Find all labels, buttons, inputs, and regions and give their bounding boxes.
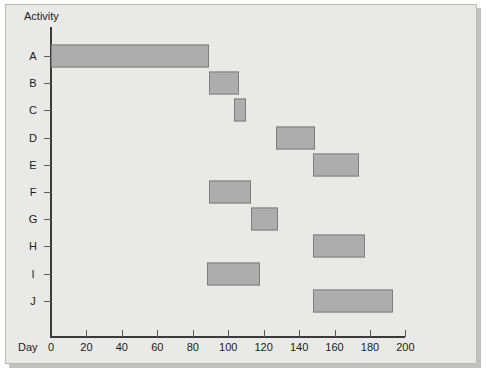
x-tick-label-40: 40 <box>116 341 128 353</box>
x-tick-40 <box>122 330 123 337</box>
y-axis-caption: Activity <box>24 10 59 22</box>
gantt-bar-g <box>251 208 278 231</box>
gantt-bar-b <box>209 72 239 95</box>
gantt-bar-e <box>313 153 359 176</box>
x-tick-120 <box>264 330 265 337</box>
y-tick-label-j: J <box>26 295 40 307</box>
x-tick-180 <box>370 330 371 337</box>
x-tick-label-200: 200 <box>396 341 414 353</box>
x-tick-20 <box>86 330 87 337</box>
x-tick-140 <box>299 330 300 337</box>
y-tick-label-g: G <box>26 213 40 225</box>
y-tick-label-a: A <box>26 50 40 62</box>
gantt-bar-d <box>276 126 315 149</box>
x-tick-label-120: 120 <box>254 341 272 353</box>
gantt-bar-a <box>51 45 209 68</box>
y-tick-i <box>44 274 52 275</box>
x-tick-80 <box>193 330 194 337</box>
y-tick-h <box>44 246 52 247</box>
y-tick-j <box>44 301 52 302</box>
y-tick-label-h: H <box>26 240 40 252</box>
x-tick-label-100: 100 <box>219 341 237 353</box>
x-tick-100 <box>228 330 229 337</box>
plot-area: Activity Day ABCDEFGHIJ 0204060801001201… <box>0 0 487 377</box>
x-tick-label-160: 160 <box>325 341 343 353</box>
gantt-chart-figure: Activity Day ABCDEFGHIJ 0204060801001201… <box>0 0 487 377</box>
y-tick-label-c: C <box>26 104 40 116</box>
x-tick-label-80: 80 <box>187 341 199 353</box>
y-tick-label-b: B <box>26 77 40 89</box>
y-tick-d <box>44 138 52 139</box>
y-tick-label-f: F <box>26 186 40 198</box>
y-tick-e <box>44 165 52 166</box>
x-tick-160 <box>335 330 336 337</box>
y-tick-c <box>44 110 52 111</box>
y-tick-b <box>44 83 52 84</box>
x-axis-caption: Day <box>18 341 38 353</box>
gantt-bar-j <box>313 289 393 312</box>
x-tick-200 <box>405 330 406 337</box>
gantt-bar-f <box>209 181 252 204</box>
gantt-bar-h <box>313 235 364 258</box>
y-tick-label-d: D <box>26 132 40 144</box>
gantt-bar-i <box>207 262 260 285</box>
x-tick-label-180: 180 <box>361 341 379 353</box>
y-tick-label-i: I <box>26 268 40 280</box>
y-axis-line <box>50 27 52 337</box>
y-tick-f <box>44 192 52 193</box>
gantt-bar-c <box>234 99 246 122</box>
x-tick-label-0: 0 <box>48 341 54 353</box>
y-tick-g <box>44 219 52 220</box>
x-tick-label-20: 20 <box>80 341 92 353</box>
y-tick-label-e: E <box>26 159 40 171</box>
x-tick-label-140: 140 <box>290 341 308 353</box>
x-tick-label-60: 60 <box>151 341 163 353</box>
x-tick-60 <box>157 330 158 337</box>
